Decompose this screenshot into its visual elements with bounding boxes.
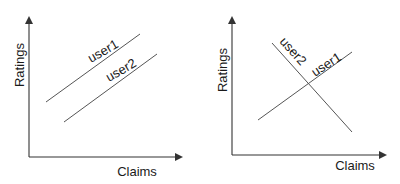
right-y-axis-label: Ratings (215, 47, 230, 92)
right-x-axis-label: Claims (335, 158, 375, 173)
left-panel: user1 user2 Ratings Claims (12, 18, 181, 179)
left-user2-line (64, 54, 157, 122)
right-user1-label: user1 (308, 49, 343, 79)
right-panel: user2 user1 Ratings Claims (215, 18, 385, 173)
diagram-canvas: user1 user2 Ratings Claims user2 user1 R… (0, 0, 400, 184)
right-user2-label: user2 (277, 34, 310, 68)
left-x-axis-label: Claims (117, 164, 157, 179)
left-y-axis-label: Ratings (12, 42, 27, 87)
